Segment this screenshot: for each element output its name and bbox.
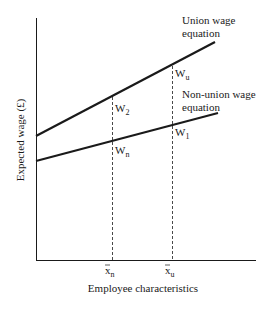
x-tick-xu: xu: [165, 264, 175, 279]
point-label-w1: W1: [175, 126, 189, 141]
svg-text:Wu: Wu: [175, 67, 189, 82]
non-union-line-label-2: equation: [182, 101, 220, 113]
svg-text:W1: W1: [175, 126, 189, 141]
svg-text:W2: W2: [115, 102, 129, 117]
point-label-wu: Wu: [175, 67, 189, 82]
y-axis-title: Expected wage (£): [14, 98, 27, 181]
point-label-wn: Wn: [115, 144, 129, 159]
wage-diagram: Union wage equation Non-union wage equat…: [0, 0, 268, 309]
x-axis-title: Employee characteristics: [88, 282, 198, 294]
union-line-label-2: equation: [182, 27, 220, 39]
svg-text:Wn: Wn: [115, 144, 129, 159]
svg-text:xn: xn: [105, 264, 115, 279]
svg-text:xu: xu: [165, 264, 175, 279]
non-union-line-label-1: Non-union wage: [182, 88, 256, 100]
x-tick-xn: xn: [105, 264, 115, 279]
union-line-label-1: Union wage: [182, 14, 236, 26]
point-label-w2: W2: [115, 102, 129, 117]
